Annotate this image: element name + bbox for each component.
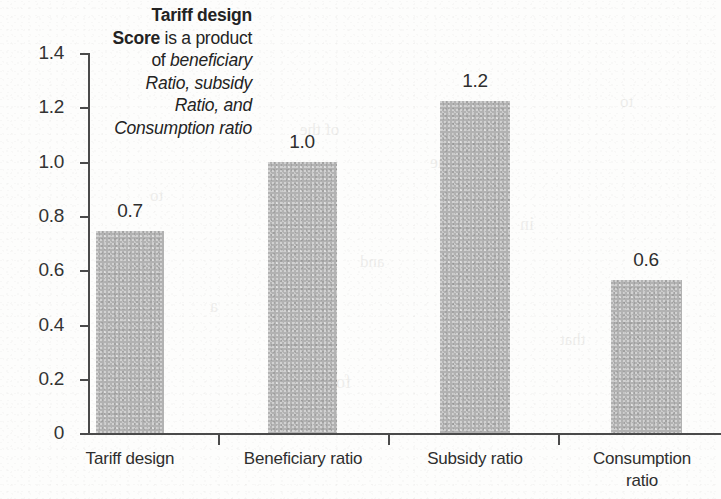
bleed-text: a (210, 296, 218, 317)
bar-beneficiary-ratio (268, 162, 337, 433)
y-tick-mark (80, 325, 89, 327)
annotation-line-3-italic: beneficiary (170, 50, 252, 70)
chart-annotation: Tariff design Score is a product of bene… (30, 4, 252, 139)
y-axis-label: 0.6 (18, 259, 64, 281)
bar-tariff-design (96, 231, 164, 433)
bleed-text: and (360, 252, 385, 272)
y-tick-mark (80, 162, 89, 164)
bar-value-subsidy-ratio: 1.2 (435, 70, 515, 92)
bar-value-consumption-ratio: 0.6 (606, 249, 686, 271)
bleed-text: in (520, 214, 534, 235)
bleed-text: to (620, 92, 633, 112)
x-tick-mark (388, 434, 390, 445)
bar-value-beneficiary-ratio: 1.0 (262, 131, 342, 153)
annotation-score-bold: Score (113, 28, 160, 48)
annotation-line-6: Consumption ratio (114, 118, 252, 138)
annotation-line-2-rest: is a product (160, 28, 252, 48)
bar-subsidy-ratio (440, 101, 510, 433)
y-tick-mark (80, 379, 89, 381)
annotation-line-4: Ratio, subsidy (146, 73, 252, 93)
x-axis-label-beneficiary-ratio: Beneficiary ratio (222, 448, 384, 470)
x-tick-mark (218, 434, 220, 445)
annotation-line-5: Ratio, and (175, 95, 252, 115)
bar-value-tariff-design: 0.7 (90, 200, 170, 222)
y-tick-mark (80, 433, 89, 435)
bleed-text: that (560, 330, 586, 350)
x-axis-label-tariff-design: Tariff design (58, 448, 202, 470)
y-axis-label: 0.4 (18, 314, 64, 336)
x-axis-label-subsidy-ratio: Subsidy ratio (402, 448, 548, 470)
y-axis-label: 1.0 (18, 151, 64, 173)
y-axis-label: 0.8 (18, 205, 64, 227)
chart-page: of the the to in and a that for the to T… (0, 0, 721, 499)
x-axis-label-consumption-ratio: Consumption ratio (578, 448, 706, 492)
y-tick-mark (80, 216, 89, 218)
annotation-line-3-regular: of (151, 50, 170, 70)
x-axis-line (88, 433, 721, 435)
y-axis-label: 0.2 (18, 368, 64, 390)
x-tick-mark (558, 434, 560, 445)
annotation-line-1: Tariff design (152, 5, 252, 25)
y-tick-mark (80, 270, 89, 272)
y-axis-label: 0 (18, 422, 64, 444)
bar-consumption-ratio (611, 280, 682, 433)
